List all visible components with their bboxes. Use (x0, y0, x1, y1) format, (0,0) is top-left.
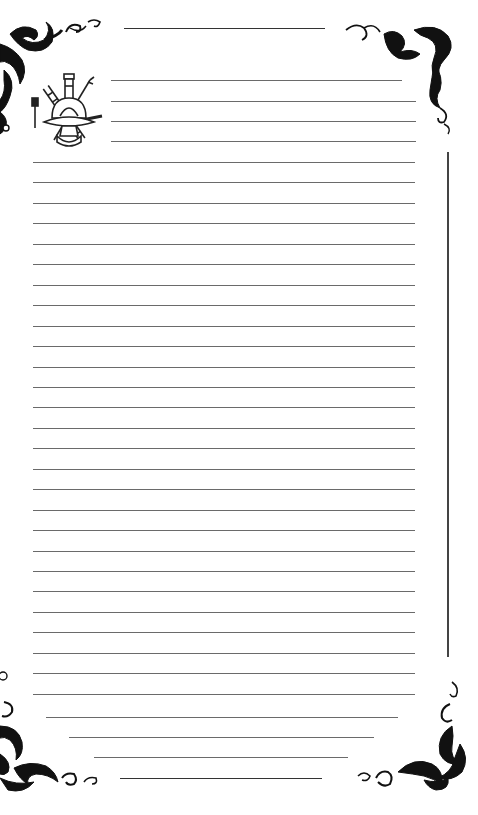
body-line (33, 510, 415, 511)
body-line (33, 428, 415, 429)
body-line (33, 632, 415, 633)
body-line (33, 571, 415, 572)
body-line (33, 489, 415, 490)
body-line (33, 264, 415, 265)
body-line (33, 407, 415, 408)
tail-line (69, 737, 374, 738)
body-line (33, 530, 415, 531)
body-line (33, 612, 415, 613)
body-line (33, 244, 415, 245)
body-line (33, 469, 415, 470)
corner-ornament-top-left (0, 0, 110, 140)
tail-line (94, 757, 348, 758)
body-line (33, 162, 415, 163)
body-line (33, 551, 415, 552)
body-line (33, 653, 415, 654)
body-line (33, 326, 415, 327)
body-line (33, 285, 415, 286)
body-line (33, 387, 415, 388)
body-line (33, 182, 415, 183)
corner-ornament-top-right (340, 18, 478, 138)
body-line (33, 305, 415, 306)
body-line (33, 591, 415, 592)
body-line (33, 223, 415, 224)
body-line (33, 367, 415, 368)
body-line (33, 203, 415, 204)
corner-ornament-bottom-right (340, 660, 478, 800)
corner-ornament-bottom-left (0, 660, 110, 800)
body-line (33, 346, 415, 347)
body-line (33, 448, 415, 449)
